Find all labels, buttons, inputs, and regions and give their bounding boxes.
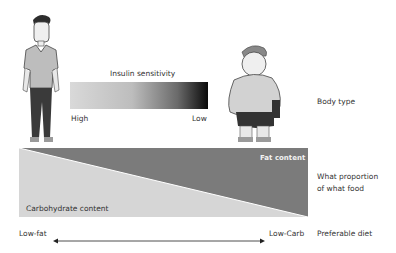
row-label-body-type: Body type (317, 98, 355, 106)
insulin-sensitivity-gradient-bar (70, 82, 208, 109)
insulin-sensitivity-title: Insulin sensitivity (110, 70, 175, 78)
obese-person-illustration (224, 40, 286, 145)
row-label-preferable-diet: Preferable diet (317, 230, 372, 238)
row-label-proportion-line2: of what food (317, 185, 364, 193)
diet-axis-left-label: Low-fat (19, 230, 47, 238)
diet-axis-right-label: Low-Carb (269, 230, 304, 238)
insulin-high-label: High (71, 115, 88, 123)
row-label-proportion-line1: What proportion (317, 173, 378, 181)
insulin-low-label: Low (192, 115, 207, 123)
double-arrow-icon (53, 230, 265, 238)
thin-person-illustration (18, 10, 64, 145)
carbohydrate-content-label: Carbohydrate content (26, 205, 109, 213)
fat-content-label: Fat content (260, 155, 305, 162)
